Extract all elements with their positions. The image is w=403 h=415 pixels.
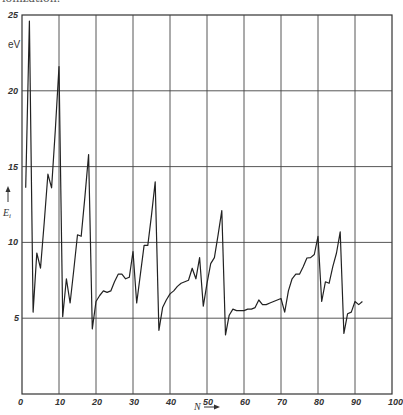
y-unit-label: eV [8,39,21,50]
x-tick-label: 50 [203,397,213,407]
x-tick-label: 100 [388,397,403,407]
x-tick-label: 90 [351,397,361,407]
x-tick-label: 20 [91,397,102,407]
y-axis-title: Ei [2,207,11,220]
y-arrowhead-icon [6,186,11,192]
x-tick-label: 70 [277,397,287,407]
y-tick-label: 5 [14,313,20,323]
x-tick-label: 60 [240,397,250,407]
y-tick-label: 15 [8,162,19,172]
grid [22,15,392,394]
x-tick-label: 30 [129,397,139,407]
x-tick-label: 0 [18,397,23,407]
x-tick-label: 80 [314,397,324,407]
x-tick-label: 10 [55,397,65,407]
x-arrowhead-icon [214,405,220,410]
y-tick-label: 10 [8,237,18,247]
y-tick-label: 20 [7,86,18,96]
ionization-energy-chart: 0102030405060708090100510152025 eV Ei N [0,0,403,415]
x-tick-label: 40 [165,397,176,407]
tick-labels: 0102030405060708090100510152025 [7,10,403,407]
y-axis-label: Ei [2,186,11,220]
data-line [26,21,363,335]
x-axis-title: N [193,401,202,412]
y-tick-label: 25 [7,10,19,20]
